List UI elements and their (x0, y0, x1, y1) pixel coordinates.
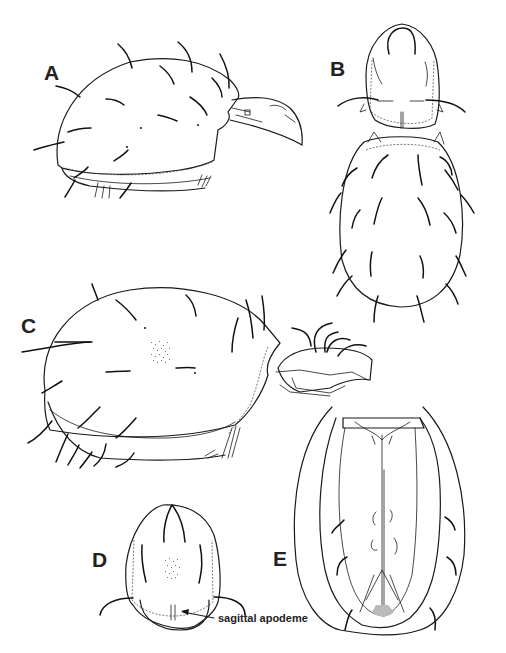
panel-label-d: D (92, 549, 107, 570)
panel-b-drawing (330, 24, 474, 322)
panel-a-drawing (34, 42, 302, 198)
panel-label-b: B (330, 58, 345, 79)
panel-e-drawing (294, 407, 464, 635)
morphology-figure (0, 0, 506, 653)
panel-c-drawing (22, 284, 372, 468)
panel-label-a: A (44, 62, 59, 83)
sagittal-apodeme-annotation: sagittal apodeme (218, 612, 308, 624)
panel-label-e: E (273, 548, 287, 569)
panel-label-c: C (21, 315, 36, 336)
